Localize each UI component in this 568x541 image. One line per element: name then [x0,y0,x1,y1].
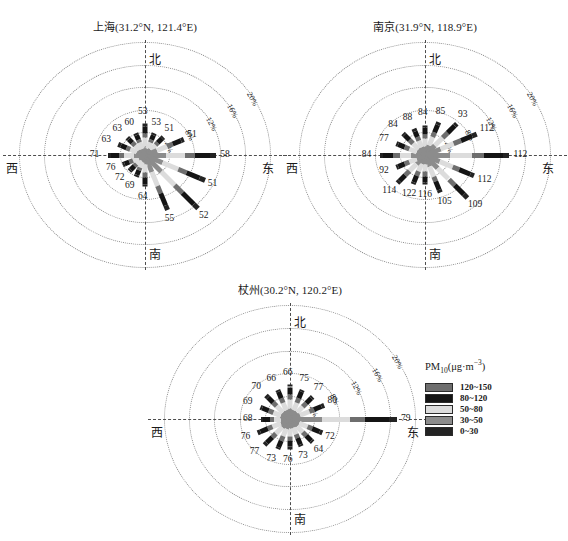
petal-value-label: 51 [164,123,174,133]
petal-value-label: 53 [151,117,161,127]
rose-panel-nanjing: 南京(31.9°N, 118.9°E) 北南东西4%8%12%16%20%848… [282,18,568,278]
petal-value-label: 114 [382,185,396,195]
petal-value-label: 53 [138,106,148,116]
legend-title-unit-close: ) [482,361,486,372]
petal-value-label: 63 [101,134,111,144]
petal-segment [380,153,384,158]
petal-value-label: 51 [208,178,218,188]
petal-segment [185,153,195,158]
petal-value-label: 58 [220,149,230,159]
rose-petal [290,417,397,422]
petal-value-label: 84 [418,107,428,117]
petal-segment [195,153,211,158]
petal-segment [423,134,428,138]
petal-value-label: 85 [436,106,446,116]
petal-value-label: 71 [90,149,100,159]
cardinal-east: 东 [262,159,274,177]
legend-swatch [425,427,453,436]
polar-plot-hangzhou: 北南东西4%8%12%16%20%66757780797264737673777… [162,303,418,535]
petal-value-label: 68 [243,413,253,423]
legend-title-subscript: 10 [440,366,448,375]
petal-segment [423,182,428,184]
legend-title-unit-open: (μg·m [448,361,474,372]
petal-segment [263,417,269,422]
petal-value-label: 55 [165,213,175,223]
petal-segment [143,172,148,176]
cardinal-north: 北 [294,313,306,331]
cardinal-east: 东 [542,159,554,177]
petal-segment [322,417,350,422]
petal-segment [423,176,428,182]
petal-value-label: 77 [314,382,324,392]
petal-value-label: 109 [468,199,482,209]
petal-segment [143,123,148,126]
petal-segment [288,394,293,399]
legend-swatch [425,394,453,403]
petal-segment [423,171,428,175]
cardinal-east: 东 [407,423,419,441]
petal-value-label: 76 [283,454,293,464]
cardinal-south: 南 [294,510,306,528]
petal-value-label: 112 [480,123,494,133]
legend-label: 120~150 [460,382,492,392]
petal-segment [143,177,148,184]
petal-value-label: 84 [362,149,372,159]
petal-segment [288,387,293,395]
legend-rows: 120~15080~12050~8030~500~30 [425,382,565,437]
cardinal-west: 西 [286,159,298,177]
petal-segment [143,184,148,186]
petal-value-label: 80 [328,395,338,405]
petal-segment [450,153,472,158]
petal-value-label: 77 [250,446,260,456]
petal-value-label: 112 [513,149,527,159]
polar-plot-shanghai: 北南东西4%8%12%16%20%53535151585152556469727… [17,40,273,270]
legend-title: PM10(μg·m−3) [425,358,565,375]
petal-value-label: 112 [477,174,491,184]
legend-label: 0~30 [460,426,478,436]
petal-value-label: 92 [379,165,389,175]
petal-segment [261,417,263,422]
panel-title-hangzhou: 杖州(30.2°N, 120.2°E) [142,281,438,297]
petal-value-label: 72 [325,431,335,441]
petal-segment [288,440,293,447]
petal-segment [111,153,119,158]
legend-title-unit-exponent: −3 [474,358,482,367]
petal-value-label: 75 [300,373,310,383]
legend-swatch [425,383,453,392]
petal-segment [393,153,399,158]
petal-value-label: 72 [115,172,125,182]
legend-label: 30~50 [460,415,483,425]
petal-segment [472,153,484,158]
petal-value-label: 122 [402,188,416,198]
rose-panel-hangzhou: 杖州(30.2°N, 120.2°E) 北南东西4%8%12%16%20%667… [142,281,438,541]
cardinal-north: 北 [149,50,161,68]
petal-segment [400,153,412,158]
panel-title-nanjing: 南京(31.9°N, 118.9°E) [282,18,568,34]
cardinal-west: 西 [151,423,163,441]
legend-label: 80~120 [460,393,487,403]
petal-segment [108,153,111,158]
legend-label: 50~80 [460,404,483,414]
panel-title-shanghai: 上海(31.2°N, 121.4°E) [2,18,288,34]
petal-value-label: 79 [401,413,411,423]
petal-value-label: 63 [112,123,122,133]
petal-value-label: 77 [379,133,389,143]
polar-plot-nanjing: 北南东西4%8%12%16%20%84859311211211210910511… [297,40,553,270]
legend-item: 50~80 [425,404,565,415]
petal-segment [288,436,293,440]
legend-title-main: PM [425,361,440,372]
petal-segment [383,153,393,158]
legend-swatch [425,416,453,425]
petal-segment [143,126,148,133]
petal-value-label: 64 [314,444,324,454]
petal-segment [143,133,148,137]
petal-segment [423,127,428,134]
petal-value-label: 93 [458,109,468,119]
petal-value-label: 51 [187,129,197,139]
cardinal-south: 南 [149,245,161,263]
petal-value-label: 60 [125,117,135,127]
cardinal-west: 西 [6,159,18,177]
rose-petal [425,153,509,158]
petal-value-label: 70 [251,381,261,391]
petal-segment [119,153,124,158]
